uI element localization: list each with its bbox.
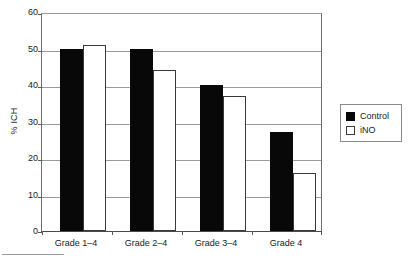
x-tickmark-3 [252, 231, 253, 235]
y-tick-label: 10 [16, 191, 38, 200]
bar-ino-grade-2-4 [153, 70, 176, 231]
bar-chart-figure: % ICH 60 50 40 30 20 10 0 [0, 0, 409, 262]
x-tickmark-1 [112, 231, 113, 235]
y-tickmark-40 [38, 87, 42, 88]
chart-legend: Control iNO [340, 104, 402, 142]
y-axis-tick-labels: 60 50 40 30 20 10 0 [10, 0, 38, 262]
y-tickmark-20 [38, 160, 42, 161]
x-tickmark-2 [182, 231, 183, 235]
y-tick-label: 30 [16, 118, 38, 127]
x-tick-label-grade-1-4: Grade 1–4 [41, 238, 111, 248]
bar-control-grade-4 [270, 132, 293, 231]
y-tickmark-10 [38, 197, 42, 198]
bar-ino-grade-3-4 [223, 96, 246, 231]
bar-ino-grade-1-4 [83, 45, 106, 231]
legend-swatch-ino-icon [346, 126, 355, 135]
y-tick-label: 50 [16, 45, 38, 54]
x-tick-label-grade-4: Grade 4 [251, 238, 321, 248]
legend-item-ino: iNO [346, 123, 397, 137]
bar-control-grade-1-4 [60, 49, 83, 232]
legend-label-ino: iNO [360, 125, 376, 135]
x-tick-label-grade-2-4: Grade 2–4 [111, 238, 181, 248]
x-tickmark-0 [42, 231, 43, 235]
bar-ino-grade-4 [293, 173, 316, 231]
y-tick-label: 60 [16, 8, 38, 17]
bar-control-grade-3-4 [200, 85, 223, 231]
legend-item-control: Control [346, 109, 397, 123]
legend-label-control: Control [360, 111, 389, 121]
bar-control-grade-2-4 [130, 49, 153, 232]
legend-swatch-control-icon [346, 112, 355, 121]
y-tick-label: 40 [16, 81, 38, 90]
page-rule-artifact [2, 254, 64, 255]
plot-area [41, 13, 322, 232]
y-tick-label: 20 [16, 154, 38, 163]
x-tick-label-grade-3-4: Grade 3–4 [181, 238, 251, 248]
y-tickmark-50 [38, 51, 42, 52]
x-tickmark-4 [321, 231, 322, 235]
y-tick-label: 0 [16, 227, 38, 236]
y-tickmark-30 [38, 124, 42, 125]
y-tickmark-60 [38, 14, 42, 15]
